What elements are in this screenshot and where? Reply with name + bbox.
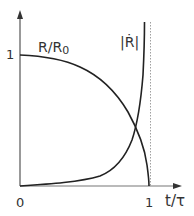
chart-canvas xyxy=(0,0,194,216)
x-axis-arrow-icon xyxy=(173,183,182,189)
curve-label-rdot: |Ṙ| xyxy=(120,35,139,49)
curve-label-r-sub: 0 xyxy=(62,44,69,57)
y-axis-arrow-icon xyxy=(17,10,23,19)
x-tick-label-1: 1 xyxy=(145,196,153,209)
x-axis-label: t/τ xyxy=(165,194,185,209)
curve-label-r: R/R0 xyxy=(38,40,69,56)
y-tick-label-1: 1 xyxy=(6,48,14,61)
curve-r-over-r0 xyxy=(20,55,149,186)
x-tick-label-0: 0 xyxy=(16,196,24,209)
curve-label-r-main: R/R xyxy=(38,39,62,55)
